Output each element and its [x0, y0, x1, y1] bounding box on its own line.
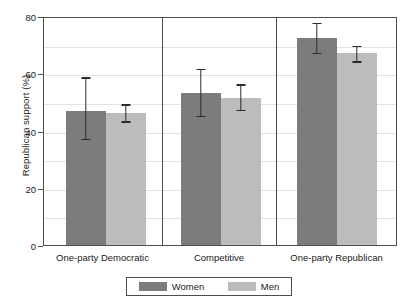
legend-entry-men: Men — [228, 281, 279, 292]
bar-competitive-men — [221, 98, 261, 245]
legend-label-men: Men — [261, 281, 279, 292]
errorbar-one-party-republican-women — [312, 23, 322, 55]
bar-one-party-democratic-men — [106, 113, 146, 245]
y-tick-label-0: 0 — [2, 241, 36, 252]
y-tick-label-80: 80 — [2, 12, 36, 23]
x-category-label-one-party-democratic: One-party Democratic — [43, 252, 162, 263]
panel-one-party-republican — [277, 18, 396, 245]
errorbar-one-party-republican-men — [352, 46, 362, 63]
legend-swatch-women-icon — [139, 282, 167, 291]
x-category-label-competitive: Competitive — [162, 252, 276, 263]
bar-one-party-republican-men — [337, 53, 377, 245]
plot-area — [43, 17, 397, 246]
republican-support-bar-chart: Republican support (%) 80 60 40 20 0 — [0, 0, 417, 307]
y-tick-mark-0 — [38, 246, 43, 247]
y-tick-label-60: 60 — [2, 69, 36, 80]
y-tick-label-40: 40 — [2, 126, 36, 137]
errorbar-one-party-democratic-men — [121, 104, 131, 123]
panel-one-party-democratic — [44, 18, 162, 245]
legend-entry-women: Women — [139, 281, 205, 292]
x-category-label-one-party-republican: One-party Republican — [276, 252, 397, 263]
panel-competitive — [163, 18, 276, 245]
legend-swatch-men-icon — [228, 282, 256, 291]
errorbar-competitive-women — [196, 69, 206, 118]
legend-label-women: Women — [172, 281, 205, 292]
legend: Women Men — [126, 277, 292, 296]
errorbar-one-party-democratic-women — [81, 77, 91, 140]
y-tick-label-20: 20 — [2, 183, 36, 194]
errorbar-competitive-men — [236, 84, 246, 111]
bar-one-party-republican-women — [297, 38, 337, 246]
